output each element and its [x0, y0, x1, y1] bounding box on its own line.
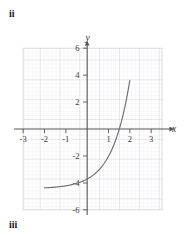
x-tick-label--3: -3	[20, 134, 27, 144]
x-axis-label: x	[171, 124, 177, 134]
y-tick-label-6: 6	[75, 43, 79, 53]
y-tick-label--2: -2	[72, 151, 79, 161]
y-tick-label-2: 2	[75, 97, 79, 107]
x-tick-label-2: 2	[128, 134, 132, 144]
y-axis-label: y	[84, 33, 90, 43]
x-tick-label-1: 1	[106, 134, 110, 144]
part-label-iii: iii	[9, 220, 17, 230]
figure-container: ii	[0, 0, 184, 235]
y-tick-label--6: -6	[72, 205, 79, 215]
x-tick-label--2: -2	[41, 134, 48, 144]
x-tick-label-3: 3	[149, 134, 153, 144]
x-tick-label--1: -1	[62, 134, 69, 144]
coordinate-plot: -3 -2 -1 1 2 3 6 4 2 -2 -4 -6 x y	[0, 0, 184, 235]
